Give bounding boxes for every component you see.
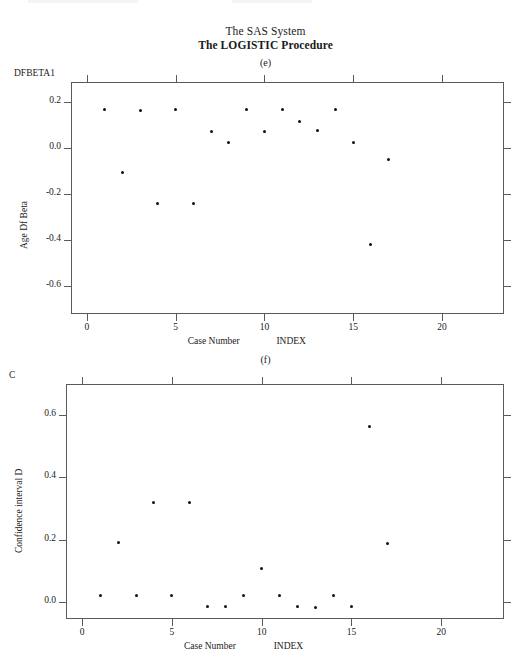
- panel-e-xtick-bottom: [442, 314, 443, 321]
- panel-f-xtick-top: [262, 377, 263, 384]
- panel-e-yaxis-title: Age Df Beta: [19, 201, 29, 249]
- panel-e-ytick-label: 0.0: [9, 141, 61, 151]
- panel-e-ytick-right: [504, 148, 511, 149]
- panel-e-xtick-top: [442, 75, 443, 82]
- panel-f-axis-head: C: [9, 370, 15, 380]
- data-point: [314, 606, 317, 609]
- panel-f-axes-frame: [66, 384, 504, 619]
- panel-f-ytick-label: 0.4: [4, 470, 56, 480]
- panel-letter-e: (e): [0, 57, 531, 68]
- data-point: [192, 202, 195, 205]
- scatter-plot-confidence-interval-d: 0.60.40.20.005101520CConfidence interval…: [0, 372, 531, 642]
- panel-f-ytick-left: [59, 477, 66, 478]
- panel-e-axis-head: DFBETA1: [14, 68, 55, 78]
- data-point: [260, 567, 263, 570]
- panel-f-ytick-label: 0.0: [4, 595, 56, 605]
- panel-f-ytick-label: 0.2: [4, 533, 56, 543]
- page-subtitle: The LOGISTIC Procedure: [0, 38, 531, 52]
- scan-artifact-top-left: [28, 0, 138, 3]
- panel-e-ytick-right: [504, 194, 511, 195]
- panel-f-xtick-top: [441, 377, 442, 384]
- data-point: [210, 130, 213, 133]
- panel-e-xtick-label: 20: [422, 322, 462, 332]
- panel-e-xtick-label: 10: [244, 322, 284, 332]
- panel-e-ytick-right: [504, 240, 511, 241]
- panel-e-ytick-label: -0.2: [9, 187, 61, 197]
- data-point: [278, 594, 281, 597]
- panel-e-xtick-label: 15: [333, 322, 373, 332]
- panel-f-xtick-label: 5: [152, 627, 192, 637]
- panel-f-yaxis-title: Confidence interval D: [14, 469, 24, 553]
- panel-e-ytick-right: [504, 102, 511, 103]
- data-point: [117, 541, 120, 544]
- panel-f-xtick-bottom: [172, 619, 173, 626]
- panel-e-xtick-bottom: [87, 314, 88, 321]
- scan-artifact-top-right: [232, 0, 312, 3]
- panel-f-xtick-label: 15: [331, 627, 371, 637]
- panel-e-ytick-label: 0.2: [9, 95, 61, 105]
- panel-e-xtick-top: [353, 75, 354, 82]
- panel-e-xtick-bottom: [353, 314, 354, 321]
- panel-e-ytick-right: [504, 286, 511, 287]
- panel-e-xtick-label: 0: [67, 322, 107, 332]
- panel-f-ytick-left: [59, 415, 66, 416]
- panel-e-xtick-bottom: [176, 314, 177, 321]
- panel-f-xtick-bottom: [82, 619, 83, 626]
- data-point: [386, 542, 389, 545]
- scatter-plot-dfbeta1: 0.20.0-0.2-0.4-0.605101520DFBETA1Age Df …: [0, 70, 531, 335]
- page-title-block: The SAS System The LOGISTIC Procedure: [0, 24, 531, 53]
- panel-f-xtick-top: [82, 377, 83, 384]
- panel-f-xtick-label: 20: [421, 627, 461, 637]
- panel-f-xtick-bottom: [262, 619, 263, 626]
- panel-f-xtick-label: 0: [62, 627, 102, 637]
- sas-output-page: The SAS System The LOGISTIC Procedure (e…: [0, 0, 531, 659]
- data-point: [281, 108, 284, 111]
- panel-f-xtick-top: [351, 377, 352, 384]
- panel-e-ytick-left: [64, 286, 71, 287]
- data-point: [121, 171, 124, 174]
- panel-f-ytick-right: [504, 415, 511, 416]
- panel-f-xtick-label: 10: [242, 627, 282, 637]
- panel-f-ytick-left: [59, 540, 66, 541]
- data-point: [350, 605, 353, 608]
- data-point: [242, 594, 245, 597]
- panel-f-xaxis-title-right: INDEX: [274, 641, 304, 651]
- panel-f-xaxis-title-left: Case Number: [184, 641, 236, 651]
- panel-f-ytick-right: [504, 602, 511, 603]
- panel-e-xtick-top: [87, 75, 88, 82]
- panel-e-xtick-top: [264, 75, 265, 82]
- panel-e-ytick-left: [64, 148, 71, 149]
- panel-f-ytick-right: [504, 477, 511, 478]
- data-point: [352, 141, 355, 144]
- data-point: [368, 425, 371, 428]
- panel-e-ytick-left: [64, 102, 71, 103]
- panel-f-xtick-bottom: [441, 619, 442, 626]
- panel-f-ytick-right: [504, 540, 511, 541]
- panel-e-axes-frame: [71, 82, 504, 314]
- panel-e-xaxis-title-right: INDEX: [276, 336, 306, 346]
- data-point: [135, 594, 138, 597]
- panel-e-xtick-bottom: [264, 314, 265, 321]
- panel-e-ytick-label: -0.4: [9, 233, 61, 243]
- panel-e-xtick-top: [176, 75, 177, 82]
- data-point: [332, 594, 335, 597]
- page-title: The SAS System: [0, 24, 531, 38]
- panel-e-ytick-left: [64, 240, 71, 241]
- panel-f-ytick-left: [59, 602, 66, 603]
- panel-e-ytick-left: [64, 194, 71, 195]
- panel-e-xtick-label: 5: [156, 322, 196, 332]
- panel-f-xtick-bottom: [351, 619, 352, 626]
- panel-e-xaxis-title-left: Case Number: [188, 336, 240, 346]
- panel-letter-f: (f): [0, 354, 531, 365]
- panel-e-ytick-label: -0.6: [9, 279, 61, 289]
- panel-f-xtick-top: [172, 377, 173, 384]
- data-point: [387, 158, 390, 161]
- panel-f-ytick-label: 0.6: [4, 408, 56, 418]
- data-point: [99, 594, 102, 597]
